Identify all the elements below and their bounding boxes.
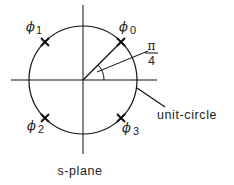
pole-label-3: ϕ3: [122, 120, 139, 137]
pole-label-1: ϕ1: [26, 19, 42, 36]
unit-circle-label: unit-circle: [157, 108, 217, 122]
pole-marker-1: [41, 38, 49, 46]
angle-arc: [98, 65, 104, 80]
unit-circle-pointer: [137, 88, 165, 107]
caption: s-plane: [57, 164, 102, 178]
angle-numerator: π: [148, 39, 156, 53]
radius-line: [83, 42, 121, 80]
angle-pointer: [97, 51, 148, 72]
s-plane-diagram: ϕ0 ϕ1 ϕ2 ϕ3 π 4 unit-circle s-plane: [0, 0, 234, 185]
pole-label-0: ϕ0: [119, 19, 136, 36]
angle-denominator: 4: [148, 54, 155, 68]
pole-marker-0: [117, 38, 125, 46]
pole-marker-2: [41, 114, 49, 122]
